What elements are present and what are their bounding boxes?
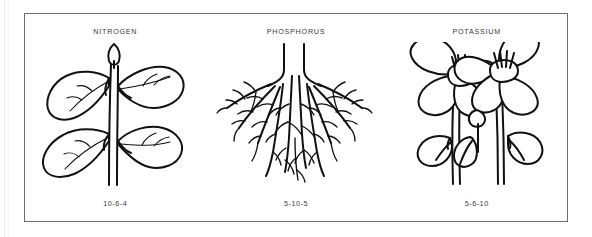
nitrogen-plant-drawing <box>43 44 184 185</box>
panel-ratio-potassium: 5-6-10 <box>465 199 489 208</box>
panel-ratio-phosphorus: 5-10-5 <box>284 199 308 208</box>
panel-ratio-nitrogen: 10-6-4 <box>103 199 127 208</box>
figure-frame: NITROGEN <box>24 13 568 222</box>
panel-container: NITROGEN <box>25 14 567 221</box>
phosphorus-root-drawing <box>217 44 372 182</box>
potassium-flower-drawing <box>410 42 542 184</box>
panel-phosphorus: PHOSPHORUS <box>206 14 387 221</box>
scan-artifact-line-left <box>4 0 5 237</box>
illustration-nitrogen-plant <box>25 34 206 199</box>
panel-nitrogen: NITROGEN <box>25 14 206 221</box>
illustration-phosphorus-roots <box>206 34 387 199</box>
panel-potassium: POTASSIUM <box>386 14 567 221</box>
scan-artifact-line-left-secondary <box>8 0 9 237</box>
illustration-potassium-flowers <box>386 34 567 199</box>
